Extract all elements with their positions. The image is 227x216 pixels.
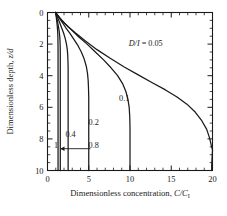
x-axis-title: Dimensionless concentration, C/CI (70, 188, 190, 199)
curve-annotation-0p8: 0.8 (89, 141, 99, 150)
y-tick-label: 10 (35, 167, 43, 176)
x-tick-label: 0 (45, 175, 49, 184)
curve-0p05 (56, 13, 213, 171)
curve-annotation-0p1: 0.1 (119, 94, 129, 103)
curve-annotation-main: D/I = 0.05 (128, 39, 163, 48)
y-tick-label: 4 (39, 72, 44, 81)
curve-annotation-0p4: 0.4 (65, 130, 75, 139)
curve-annotation-0p2: 0.2 (89, 118, 99, 127)
y-tick-label: 0 (39, 9, 43, 18)
y-tick-label: 2 (39, 40, 43, 49)
figure-container: 051015200246810D/I = 0.050.10.20.40.81Di… (0, 0, 227, 216)
annotation-arrow-head (60, 146, 64, 150)
y-tick-label: 6 (39, 103, 43, 112)
x-tick-label: 20 (208, 175, 216, 184)
x-tick-label: 10 (126, 175, 134, 184)
y-tick-label: 8 (39, 135, 43, 144)
x-tick-label: 5 (87, 175, 91, 184)
concentration-depth-chart: 051015200246810D/I = 0.050.10.20.40.81Di… (0, 0, 227, 216)
curve-annotation-1: 1 (54, 141, 58, 150)
x-tick-label: 15 (167, 175, 175, 184)
y-axis-title: Dimensionless depth, z/d (5, 48, 15, 135)
